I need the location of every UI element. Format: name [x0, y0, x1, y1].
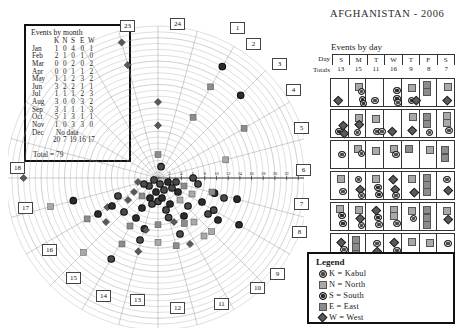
day-total: 15	[350, 65, 368, 74]
event-marker-s	[95, 211, 102, 218]
event-marker-w	[124, 61, 131, 68]
day-cell	[349, 79, 367, 106]
day-cell	[384, 110, 402, 137]
event-marker-k	[177, 231, 184, 238]
event-marker-k	[410, 215, 418, 223]
event-marker-k	[165, 214, 172, 221]
week-label-3[interactable]: 3	[272, 58, 287, 70]
day-cell	[420, 141, 438, 168]
week-label-12[interactable]: 12	[170, 302, 185, 314]
day-cell	[384, 203, 402, 230]
event-marker-e	[190, 114, 196, 120]
week-label-16[interactable]: 16	[42, 244, 57, 256]
polar-spiral-chart: 2468101214161820222426 23241234567891011…	[8, 6, 304, 328]
day-letter: T	[368, 55, 385, 65]
day-cell	[349, 172, 367, 199]
radial-tick-label: 16	[249, 171, 254, 176]
event-marker-e	[423, 206, 431, 214]
event-marker-w	[102, 218, 109, 225]
event-marker-e	[423, 221, 431, 229]
event-marker-n	[155, 239, 161, 245]
event-marker-s	[139, 205, 146, 212]
week-label-11[interactable]: 11	[214, 298, 229, 310]
legend-n-icon	[319, 281, 327, 289]
event-marker-e	[441, 146, 449, 154]
week-label-4[interactable]: 4	[286, 84, 301, 96]
event-marker-n	[191, 219, 197, 225]
event-marker-k	[371, 97, 379, 105]
event-marker-k	[185, 203, 192, 210]
event-marker-w	[410, 187, 419, 196]
week-row	[330, 171, 455, 200]
week-label-13[interactable]: 13	[130, 294, 145, 306]
week-label-8[interactable]: 8	[292, 226, 307, 238]
legend-marker-s-icon	[316, 292, 329, 300]
week-label-18[interactable]: 18	[10, 162, 25, 174]
day-letter: M	[350, 55, 367, 65]
week-label-17[interactable]: 17	[18, 202, 33, 214]
week-label-9[interactable]: 9	[270, 268, 285, 280]
week-label-14[interactable]: 14	[96, 290, 111, 302]
event-marker-k	[354, 129, 362, 137]
week-label-10[interactable]: 10	[250, 282, 265, 294]
event-marker-n	[337, 175, 345, 183]
event-marker-s	[181, 213, 188, 220]
week-row	[330, 78, 455, 107]
event-marker-n	[201, 233, 207, 239]
day-cell	[366, 110, 384, 137]
event-marker-s	[339, 220, 347, 228]
event-marker-k	[149, 201, 156, 208]
radial-tick-label: 2	[169, 171, 171, 176]
day-letter: S	[333, 55, 350, 65]
event-marker-k	[141, 181, 148, 188]
week-label-1[interactable]: 1	[230, 22, 245, 34]
day-cell	[331, 172, 349, 199]
event-marker-k	[108, 256, 115, 263]
event-marker-n	[81, 249, 87, 255]
day-cell	[366, 79, 384, 106]
legend-w-icon	[318, 313, 328, 323]
day-total: 9	[402, 65, 420, 74]
event-marker-s	[153, 189, 160, 196]
legend-item-e: E = East	[316, 301, 453, 312]
week-label-24[interactable]: 24	[170, 18, 185, 30]
event-marker-s	[338, 212, 346, 220]
day-cell	[384, 141, 402, 168]
event-marker-s	[236, 221, 243, 228]
event-marker-k	[393, 220, 401, 228]
event-marker-k	[221, 195, 228, 202]
day-cell	[437, 79, 454, 106]
polar-spoke	[26, 102, 158, 178]
event-marker-w	[20, 174, 27, 181]
event-marker-n	[443, 207, 451, 215]
day-cell	[402, 110, 420, 137]
week-label-2[interactable]: 2	[246, 38, 261, 50]
polar-spoke	[82, 46, 158, 178]
radial-tick-label: 12	[226, 171, 230, 176]
day-cell	[437, 172, 454, 199]
week-label-15[interactable]: 15	[66, 272, 81, 284]
event-marker-s	[109, 203, 116, 210]
day-cell	[331, 141, 349, 168]
event-marker-e	[155, 152, 161, 158]
day-total: 7	[437, 65, 455, 74]
radial-tick-label: 14	[238, 171, 243, 176]
week-label-23[interactable]: 23	[120, 20, 135, 32]
event-marker-s	[175, 189, 182, 196]
day-total: 16	[385, 65, 403, 74]
legend-s-icon	[319, 292, 327, 300]
day-cell	[437, 110, 454, 137]
day-letter: S	[438, 55, 454, 65]
event-marker-n	[409, 113, 417, 121]
legend-label: S = South	[329, 291, 364, 300]
event-marker-k	[392, 192, 400, 200]
event-marker-n	[355, 206, 363, 214]
event-marker-n	[408, 175, 416, 183]
event-marker-n	[372, 147, 380, 155]
legend-label: N = North	[329, 280, 365, 289]
event-marker-k	[190, 175, 197, 182]
event-marker-w	[408, 125, 417, 134]
event-marker-w	[389, 174, 398, 183]
week-row	[330, 109, 455, 138]
event-marker-n	[408, 84, 416, 92]
